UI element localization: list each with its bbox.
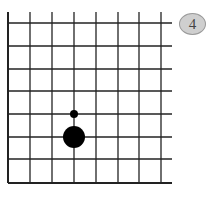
black-stone	[63, 126, 85, 148]
diagram-number-badge: 4	[179, 13, 206, 35]
marker-dot	[70, 110, 78, 118]
go-board	[0, 0, 207, 197]
diagram-number: 4	[189, 16, 197, 33]
